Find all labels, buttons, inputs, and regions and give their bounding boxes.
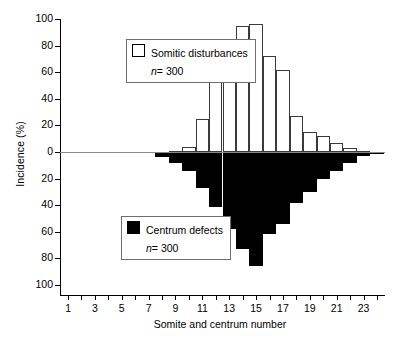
x-tick-label: 17 bbox=[273, 302, 293, 314]
y-tick bbox=[55, 152, 60, 153]
y-tick-label: 20 bbox=[22, 173, 53, 183]
x-tick-label: 1 bbox=[58, 302, 78, 314]
bar bbox=[303, 132, 316, 152]
bar bbox=[290, 116, 303, 152]
bar bbox=[317, 136, 330, 152]
x-tick-label: 5 bbox=[112, 302, 132, 314]
x-tick bbox=[68, 295, 69, 300]
y-tick-label: 80 bbox=[22, 40, 53, 50]
x-tick bbox=[122, 295, 123, 300]
bar bbox=[330, 152, 343, 171]
y-tick-label: 60 bbox=[22, 66, 53, 76]
bar bbox=[169, 152, 182, 163]
bar bbox=[276, 70, 289, 152]
x-tick-label: 3 bbox=[85, 302, 105, 314]
x-tick bbox=[108, 295, 109, 300]
bar bbox=[263, 56, 276, 152]
plot-area: 02040608010020406080100 1357911131517192… bbox=[60, 19, 385, 295]
y-tick-label: 0 bbox=[22, 146, 53, 156]
legend-n-value-somitic: = 300 bbox=[157, 65, 184, 77]
x-tick bbox=[283, 295, 284, 300]
legend-label-somitic: Somitic disturbances bbox=[151, 47, 248, 59]
zero-baseline bbox=[60, 152, 385, 153]
y-tick bbox=[55, 99, 60, 100]
legend-n-value-centrum: = 300 bbox=[152, 242, 179, 254]
y-tick-label: 100 bbox=[22, 279, 53, 289]
x-tick-label: 15 bbox=[246, 302, 266, 314]
x-tick bbox=[364, 295, 365, 300]
x-tick-label: 9 bbox=[165, 302, 185, 314]
x-tick bbox=[377, 295, 378, 300]
x-tick bbox=[243, 295, 244, 300]
legend-somitic-disturbances: Somitic disturbances n= 300 bbox=[126, 39, 256, 83]
y-axis-line bbox=[60, 19, 61, 295]
y-tick-label: 80 bbox=[22, 252, 53, 262]
open-square-icon bbox=[132, 44, 145, 57]
x-tick-label: 21 bbox=[327, 302, 347, 314]
bar bbox=[209, 78, 222, 152]
x-tick bbox=[323, 295, 324, 300]
y-tick bbox=[55, 19, 60, 20]
y-tick-label: 60 bbox=[22, 226, 53, 236]
x-tick bbox=[175, 295, 176, 300]
bar bbox=[317, 152, 330, 179]
x-tick bbox=[229, 295, 230, 300]
y-tick-label: 40 bbox=[22, 93, 53, 103]
bar bbox=[276, 152, 289, 224]
filled-square-icon bbox=[127, 221, 140, 234]
x-tick bbox=[216, 295, 217, 300]
y-tick-label: 40 bbox=[22, 199, 53, 209]
bar bbox=[330, 143, 343, 152]
bar bbox=[343, 152, 356, 163]
x-tick-label: 19 bbox=[300, 302, 320, 314]
x-tick-label: 23 bbox=[354, 302, 374, 314]
x-tick bbox=[202, 295, 203, 300]
x-tick bbox=[310, 295, 311, 300]
legend-n-somitic: n= 300 bbox=[151, 65, 183, 77]
y-tick bbox=[55, 285, 60, 286]
y-tick bbox=[55, 205, 60, 206]
x-tick bbox=[95, 295, 96, 300]
y-tick bbox=[55, 72, 60, 73]
y-tick bbox=[55, 179, 60, 180]
y-tick bbox=[55, 258, 60, 259]
x-tick bbox=[149, 295, 150, 300]
y-tick bbox=[55, 125, 60, 126]
y-tick-label: 20 bbox=[22, 119, 53, 129]
x-axis-label: Somite and centrum number bbox=[60, 318, 380, 330]
x-tick bbox=[337, 295, 338, 300]
x-tick bbox=[81, 295, 82, 300]
x-tick bbox=[162, 295, 163, 300]
bar bbox=[196, 152, 209, 188]
bar bbox=[303, 152, 316, 192]
bar bbox=[182, 152, 195, 171]
legend-label-centrum: Centrum defects bbox=[146, 224, 223, 236]
bar bbox=[249, 152, 262, 266]
y-tick-label: 100 bbox=[22, 13, 53, 23]
bar bbox=[209, 152, 222, 207]
x-tick-label: 13 bbox=[219, 302, 239, 314]
bar bbox=[196, 119, 209, 152]
bar bbox=[236, 152, 249, 249]
x-tick bbox=[270, 295, 271, 300]
chart-figure: Incidence (%) Somite and centrum number … bbox=[0, 0, 399, 341]
x-tick-label: 7 bbox=[139, 302, 159, 314]
x-tick-label: 11 bbox=[192, 302, 212, 314]
x-tick bbox=[296, 295, 297, 300]
x-tick bbox=[350, 295, 351, 300]
bar bbox=[263, 152, 276, 234]
legend-n-centrum: n= 300 bbox=[146, 242, 178, 254]
x-tick bbox=[256, 295, 257, 300]
legend-centrum-defects: Centrum defects n= 300 bbox=[121, 216, 231, 260]
x-tick bbox=[189, 295, 190, 300]
y-tick bbox=[55, 46, 60, 47]
y-tick bbox=[55, 232, 60, 233]
x-tick bbox=[135, 295, 136, 300]
bar bbox=[290, 152, 303, 203]
